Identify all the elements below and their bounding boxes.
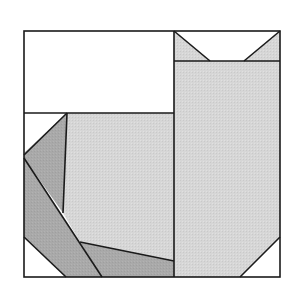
cat-quilt-block-diagram — [0, 0, 301, 294]
cat-head-body-piece — [174, 61, 280, 277]
background-top-left-piece — [24, 31, 174, 113]
cat-back-piece — [63, 113, 174, 261]
quilt-pieces — [24, 31, 280, 277]
